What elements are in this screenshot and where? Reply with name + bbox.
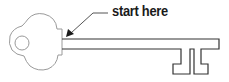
key-shaft [62,39,219,74]
arrowhead-icon [66,29,74,37]
key-ring-hole [15,36,29,50]
start-here-label: start here [112,3,168,19]
arrow-line [71,13,93,33]
key-bow [9,14,62,70]
